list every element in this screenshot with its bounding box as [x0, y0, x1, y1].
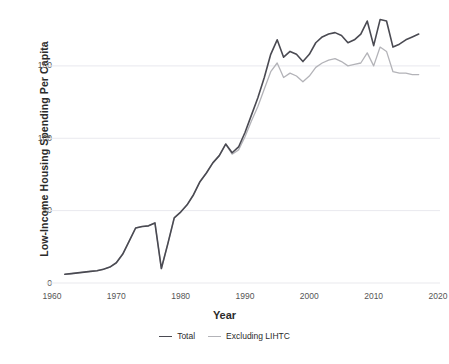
- y-tick-50: 50: [8, 206, 52, 215]
- legend-label: Total: [177, 331, 195, 341]
- x-tick-2020: 2020: [418, 292, 449, 301]
- y-tick-100: 100: [8, 134, 52, 143]
- series-line-total: [65, 20, 419, 275]
- plot-svg: [52, 8, 438, 283]
- chart-figure: Low-Income Housing Spending Per Capita 0…: [0, 0, 449, 364]
- x-tick-1980: 1980: [161, 292, 201, 301]
- y-tick-0: 0: [8, 279, 52, 288]
- legend-swatch-icon: [159, 336, 172, 337]
- x-tick-2000: 2000: [289, 292, 329, 301]
- x-tick-1970: 1970: [96, 292, 136, 301]
- x-tick-1990: 1990: [225, 292, 265, 301]
- series-line-excluding-lihtc: [65, 47, 419, 274]
- legend-item-total[interactable]: Total: [159, 331, 195, 341]
- x-tick-1960: 1960: [32, 292, 72, 301]
- legend-label: Excluding LIHTC: [226, 331, 290, 341]
- chart-legend: TotalExcluding LIHTC: [0, 331, 449, 341]
- plot-area: [52, 8, 438, 283]
- x-tick-2010: 2010: [354, 292, 394, 301]
- y-tick-150: 150: [8, 61, 52, 70]
- legend-item-excluding-lihtc[interactable]: Excluding LIHTC: [208, 331, 290, 341]
- legend-swatch-icon: [208, 336, 221, 337]
- series-group: [65, 20, 419, 275]
- gridline-group: [46, 66, 440, 283]
- x-axis-title: Year: [0, 309, 449, 321]
